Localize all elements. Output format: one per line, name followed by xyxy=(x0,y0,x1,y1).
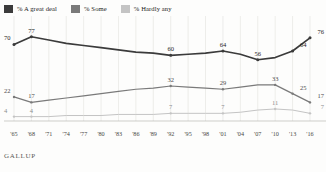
x-tick-label: '86 xyxy=(132,129,139,139)
data-point-label: 60 xyxy=(167,45,174,53)
x-tick-label: '80 xyxy=(97,129,104,139)
x-tick-label: '77 xyxy=(80,129,87,139)
legend-swatch-icon xyxy=(121,5,130,13)
data-point-label: 76 xyxy=(318,28,325,36)
x-tick-label: '89 xyxy=(150,129,157,139)
data-point-label: 4 xyxy=(30,107,33,115)
data-point-label: 33 xyxy=(272,75,279,83)
data-point-marker[interactable] xyxy=(256,58,259,61)
data-point-marker[interactable] xyxy=(13,43,16,46)
legend-label: % A great deal xyxy=(17,5,57,13)
data-point-marker[interactable] xyxy=(221,49,224,52)
x-tick-label: '16 xyxy=(306,129,313,139)
data-point-marker[interactable] xyxy=(291,92,293,94)
data-point-marker[interactable] xyxy=(309,112,311,114)
data-point-label: 56 xyxy=(255,50,262,58)
data-point-label: 29 xyxy=(220,79,227,87)
data-point-marker[interactable] xyxy=(291,49,294,52)
data-point-label: 64 xyxy=(220,41,227,49)
x-tick-label: '95 xyxy=(184,129,191,139)
data-point-label: 4 xyxy=(4,107,7,115)
data-point-label: 11 xyxy=(272,99,278,107)
data-point-marker[interactable] xyxy=(30,115,32,117)
x-tick-label: '98 xyxy=(202,129,209,139)
data-point-marker[interactable] xyxy=(274,108,276,110)
data-point-label: 17 xyxy=(28,92,35,100)
data-point-marker[interactable] xyxy=(169,54,172,57)
legend-label: % Some xyxy=(84,5,107,13)
x-tick-label: '71 xyxy=(45,129,52,139)
data-point-marker[interactable] xyxy=(30,35,33,38)
series-1 xyxy=(13,84,311,104)
chart-legend: % A great deal% Some% Hardly any xyxy=(4,3,186,14)
x-tick-label: '92 xyxy=(167,129,174,139)
data-point-marker[interactable] xyxy=(222,112,224,114)
x-tick-label: '74 xyxy=(63,129,70,139)
x-tick-label: '10 xyxy=(272,129,279,139)
data-point-label: 64 xyxy=(300,41,307,49)
legend-label: % Hardly any xyxy=(134,5,172,13)
x-tick-label: '68 xyxy=(28,129,35,139)
source-attribution: GALLUP xyxy=(4,152,36,160)
data-point-marker[interactable] xyxy=(170,85,172,87)
series-line xyxy=(14,37,310,60)
data-point-marker[interactable] xyxy=(309,36,312,39)
vertical-gridlines xyxy=(14,16,310,121)
gallup-trend-chart: % A great deal% Some% Hardly any 7077606… xyxy=(0,0,326,172)
legend-some[interactable]: % Some xyxy=(71,5,107,13)
data-point-label: 25 xyxy=(300,84,307,92)
legend-swatch-icon xyxy=(71,5,80,13)
x-tick-label: '65 xyxy=(10,129,17,139)
data-point-marker[interactable] xyxy=(222,88,224,90)
data-point-marker[interactable] xyxy=(170,112,172,114)
x-axis-tick-labels: '65'68'71'74'77'80'83'86'89'92'95'98'01'… xyxy=(0,129,326,141)
chart-plot-area: 70776064566476221732293325174477117 xyxy=(0,16,326,128)
data-point-marker[interactable] xyxy=(274,84,276,86)
data-point-marker[interactable] xyxy=(13,96,15,98)
data-point-label: 17 xyxy=(318,92,325,100)
series-line xyxy=(14,109,310,117)
legend-swatch-icon xyxy=(4,5,13,13)
legend-hardly-any[interactable]: % Hardly any xyxy=(121,5,172,13)
data-point-label: 22 xyxy=(4,87,11,95)
series-2 xyxy=(13,108,311,118)
legend-a-great-deal[interactable]: % A great deal xyxy=(4,5,57,13)
series-line xyxy=(14,85,310,103)
data-point-label: 70 xyxy=(4,34,11,42)
data-point-label: 7 xyxy=(169,103,172,111)
x-tick-label: '07 xyxy=(254,129,261,139)
data-point-label: 7 xyxy=(321,103,324,111)
series-0 xyxy=(13,35,312,61)
x-tick-label: '83 xyxy=(115,129,122,139)
data-point-label: 7 xyxy=(221,103,224,111)
data-point-marker[interactable] xyxy=(13,115,15,117)
data-point-marker[interactable] xyxy=(30,101,32,103)
data-point-label: 77 xyxy=(28,27,35,35)
x-tick-label: '13 xyxy=(289,129,296,139)
x-tick-label: '01 xyxy=(219,129,226,139)
x-tick-label: '04 xyxy=(237,129,244,139)
data-point-label: 32 xyxy=(167,76,174,84)
data-point-marker[interactable] xyxy=(309,101,311,103)
chart-svg xyxy=(0,16,326,128)
